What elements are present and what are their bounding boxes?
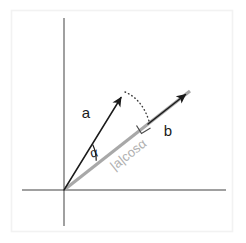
vector-b-label: b xyxy=(164,122,172,139)
vector-b-line xyxy=(148,95,186,125)
diagram-canvas: a b α |a|cosα xyxy=(0,0,246,243)
vector-a-label: a xyxy=(82,104,91,121)
projection-dropline xyxy=(125,92,149,121)
figure-border xyxy=(12,11,233,232)
vector-a-line xyxy=(64,98,121,191)
angle-alpha-label: α xyxy=(89,144,100,160)
vector-projection-figure: a b α |a|cosα xyxy=(0,0,246,243)
